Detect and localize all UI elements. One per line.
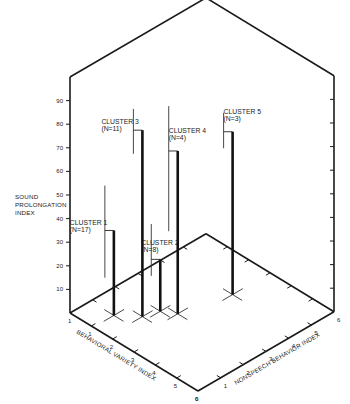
cluster-2: CLUSTER 2(N=8): [141, 224, 179, 317]
cluster-label: CLUSTER 4: [169, 127, 207, 134]
y-tick: [217, 375, 221, 377]
cluster-1: CLUSTER 1(N=17): [70, 186, 124, 322]
y-axis-ticks: 0123456: [93, 247, 341, 402]
x-back-tick: [309, 299, 313, 301]
cluster-n-label: (N=11): [101, 125, 121, 133]
y-tick: [239, 362, 243, 364]
y-tick: [262, 349, 266, 351]
z-tick-label: 40: [56, 216, 63, 222]
chart-frame: [70, 0, 334, 391]
x-tick: [91, 324, 95, 326]
z-tick-label: 90: [56, 98, 63, 104]
cluster-label: CLUSTER 2: [141, 239, 179, 246]
cluster-bars: CLUSTER 1(N=17)CLUSTER 2(N=8)CLUSTER 3(N…: [70, 106, 261, 322]
x-back-tick: [245, 260, 249, 262]
y-tick-label: 6: [337, 317, 341, 323]
z-axis-label-line1: SOUND: [15, 193, 39, 200]
y-back-tick: [183, 247, 187, 249]
x-tick: [177, 376, 181, 378]
x-tick-label: 5: [174, 383, 178, 389]
x-back-tick: [223, 247, 227, 249]
cluster-n-label: (N=3): [224, 115, 241, 123]
z-tick-label: 10: [56, 286, 63, 292]
cluster-n-label: (N=8): [141, 246, 158, 254]
z-tick-label: 30: [56, 239, 63, 245]
y-tick-label: 1: [224, 383, 228, 389]
z-tick-label: 60: [56, 168, 63, 174]
cluster-3d-chart: 102030405060708090 1123456 0123456 CLUST…: [0, 0, 350, 404]
behavioral-variety-axis: [70, 313, 198, 391]
x-origin-label: 1: [68, 318, 72, 324]
cluster-n-label: (N=4): [169, 134, 186, 142]
top-left-edge: [70, 0, 206, 77]
x-back-tick: [287, 286, 291, 288]
y-back-tick: [115, 287, 119, 289]
cluster-n-label: (N=17): [70, 226, 91, 234]
x-tick: [134, 350, 138, 352]
z-axis-label-line3: INDEX: [15, 209, 35, 216]
y-tick: [285, 336, 289, 338]
z-axis-label-line2: PROLONGATION: [15, 201, 67, 208]
cluster-label: CLUSTER 5: [224, 108, 262, 115]
z-tick-label: 80: [56, 121, 63, 127]
x-axis-label: BEHAVIORAL VARIETY INDEX: [75, 328, 157, 382]
y-origin-label: 0: [195, 396, 199, 402]
cluster-4: CLUSTER 4(N=4): [168, 106, 207, 320]
x-tick: [155, 363, 159, 365]
y-tick: [307, 323, 311, 325]
cluster-label: CLUSTER 3: [101, 118, 139, 125]
top-right-edge: [206, 0, 334, 76]
z-tick-label: 50: [56, 192, 63, 198]
x-tick: [113, 337, 117, 339]
cluster-label: CLUSTER 1: [70, 219, 108, 226]
x-back-tick: [266, 273, 270, 275]
z-tick-label: 20: [56, 263, 63, 269]
y-back-tick: [93, 300, 97, 302]
z-tick-label: 70: [56, 145, 63, 151]
y-axis-label: NONSPEECH BEHAVIOR INDEX: [233, 331, 321, 386]
cluster-5: CLUSTER 5(N=3): [222, 108, 261, 301]
